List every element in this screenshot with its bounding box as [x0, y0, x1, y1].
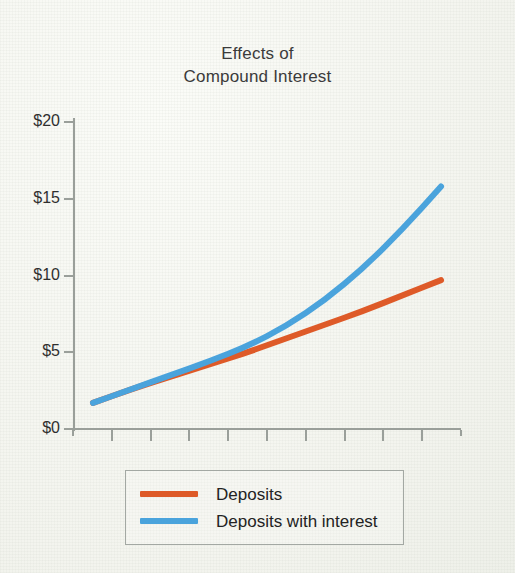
- legend-label-deposits: Deposits: [216, 485, 282, 504]
- legend-swatch-deposits-with-interest: [140, 518, 198, 524]
- chart-legend: Deposits Deposits with interest: [125, 470, 404, 545]
- legend-swatch-deposits: [140, 491, 198, 497]
- series-line-deposits-with-interest: [93, 187, 441, 403]
- legend-item-deposits-with-interest: Deposits with interest: [140, 510, 378, 532]
- legend-label-deposits-with-interest: Deposits with interest: [216, 512, 378, 531]
- legend-item-deposits: Deposits: [140, 483, 282, 505]
- compound-interest-chart: Effects of Compound Interest $20$15$10$5…: [0, 0, 515, 573]
